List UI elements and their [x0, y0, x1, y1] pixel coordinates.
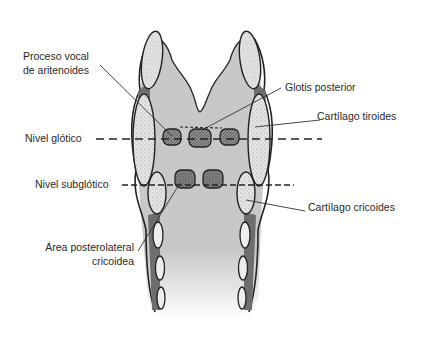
vocal-process-right — [220, 129, 239, 145]
vocal-process-left — [163, 129, 181, 145]
label-cartilago-cricoides: Cartílago cricoides — [308, 201, 395, 214]
cricoid-left — [148, 172, 166, 214]
thyroid-lamina-right — [248, 94, 270, 186]
glottis-posterior — [189, 129, 211, 147]
label-glotis-posterior: Glotis posterior — [285, 81, 356, 94]
cricoid-right — [237, 172, 255, 214]
label-area-posterolateral-2: cricoidea — [92, 255, 134, 268]
larynx-diagram: Proceso vocal de aritenoides Glotis post… — [0, 0, 423, 338]
label-cartilago-tiroides: Cartílago tiroides — [317, 110, 396, 123]
label-proceso-vocal-2: de aritenoides — [23, 64, 89, 77]
label-area-posterolateral-1: Área posterolateral — [45, 241, 134, 254]
label-proceso-vocal-1: Proceso vocal — [23, 50, 89, 63]
label-nivel-glotico: Nivel glótico — [25, 132, 82, 145]
label-nivel-subglotico: Nivel subglótico — [35, 178, 109, 191]
